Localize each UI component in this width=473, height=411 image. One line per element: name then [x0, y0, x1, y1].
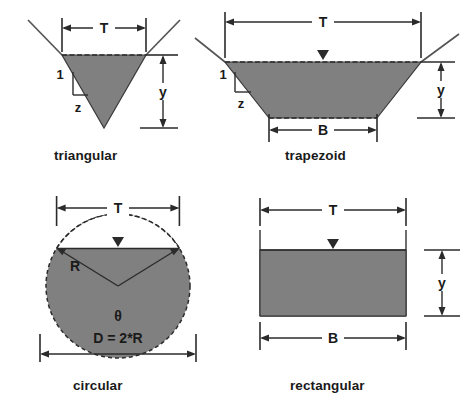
panel-circular: R θ T D = 2*R	[8, 188, 228, 368]
t-arrow-left-icon	[225, 19, 234, 26]
y-arrow-down-icon	[439, 307, 446, 316]
t-arrow-right-icon	[137, 25, 146, 32]
label-slope-vertical: 1	[56, 67, 63, 82]
label-angle: θ	[114, 308, 122, 324]
water-area-triangle	[62, 55, 146, 128]
label-bottom-width: B	[328, 330, 338, 346]
caption-trapezoid: trapezoid	[285, 148, 346, 163]
t-arrow-left-icon	[260, 207, 269, 214]
y-arrow-up-icon	[160, 55, 167, 64]
label-top-width: T	[319, 14, 328, 30]
label-slope-vertical: 1	[219, 67, 226, 82]
label-depth: y	[159, 84, 167, 100]
caption-rectangular: rectangular	[290, 378, 365, 393]
d-arrow-right-icon	[187, 351, 196, 358]
water-area-trapezoid	[225, 62, 421, 118]
t-arrow-right-icon	[170, 205, 179, 212]
y-arrow-down-icon	[160, 119, 167, 128]
panel-triangular: T y 1 z	[0, 0, 200, 145]
label-radius: R	[70, 258, 80, 274]
label-top-width: T	[100, 20, 109, 36]
panel-rectangular: T B y	[228, 188, 473, 368]
d-arrow-left-icon	[40, 351, 49, 358]
y-arrow-down-icon	[438, 109, 445, 118]
label-bottom-width: B	[318, 122, 328, 138]
left-bank-line	[195, 38, 225, 62]
y-arrow-up-icon	[439, 250, 446, 259]
right-bank-line	[421, 34, 459, 62]
t-arrow-left-icon	[57, 205, 66, 212]
t-arrow-right-icon	[397, 207, 406, 214]
label-slope-horizontal: z	[75, 100, 82, 115]
water-area-rectangle	[260, 250, 406, 316]
label-top-width: T	[329, 202, 338, 218]
caption-triangular: triangular	[54, 148, 117, 163]
y-arrow-up-icon	[438, 62, 445, 71]
label-depth: y	[437, 82, 445, 98]
channel-cross-section-figure: T y 1 z triangular T	[0, 0, 473, 411]
panel-trapezoid: T B y 1 z	[193, 0, 473, 145]
b-arrow-left-icon	[260, 335, 269, 342]
caption-circular: circular	[73, 378, 123, 393]
t-arrow-left-icon	[62, 25, 71, 32]
b-arrow-right-icon	[397, 335, 406, 342]
label-slope-horizontal: z	[238, 96, 245, 111]
left-bank-line	[28, 20, 62, 55]
water-surface-marker-icon	[327, 239, 339, 249]
right-bank-line	[146, 20, 180, 55]
b-arrow-left-icon	[269, 127, 278, 134]
b-arrow-right-icon	[368, 127, 377, 134]
t-arrow-right-icon	[412, 19, 421, 26]
label-depth: y	[438, 275, 446, 291]
label-diameter: D = 2*R	[93, 330, 142, 346]
label-top-width: T	[114, 200, 123, 216]
water-surface-marker-icon	[317, 50, 329, 60]
